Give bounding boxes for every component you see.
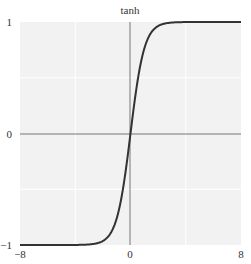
y-tick-zero: 0 bbox=[7, 128, 13, 140]
x-tick-left: −8 bbox=[14, 248, 26, 260]
y-tick-top: 1 bbox=[7, 16, 13, 28]
y-tick-bottom: −1 bbox=[0, 239, 12, 251]
tanh-chart: tanh 1 0 −1 −8 0 8 bbox=[0, 0, 251, 264]
x-tick-right: 8 bbox=[238, 248, 244, 260]
chart-title: tanh bbox=[121, 4, 140, 16]
x-tick-zero: 0 bbox=[127, 248, 133, 260]
